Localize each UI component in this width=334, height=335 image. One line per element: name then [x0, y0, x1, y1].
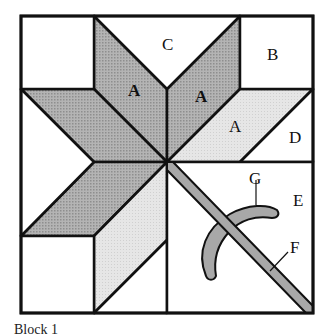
quilt-block-diagram: A A A B C D E F G [0, 0, 334, 335]
label-C: C [162, 35, 173, 54]
label-E: E [293, 191, 303, 210]
label-F: F [290, 238, 299, 257]
corner-square-top-left [21, 16, 94, 89]
figure-caption: Block 1 [14, 322, 58, 335]
label-A-top-right: A [195, 87, 208, 106]
label-G: G [249, 169, 261, 188]
label-A-top-left: A [128, 81, 141, 100]
corner-square-bottom-left [21, 236, 94, 313]
label-A-right: A [229, 117, 242, 136]
label-D: D [289, 128, 301, 147]
label-B: B [267, 45, 278, 64]
